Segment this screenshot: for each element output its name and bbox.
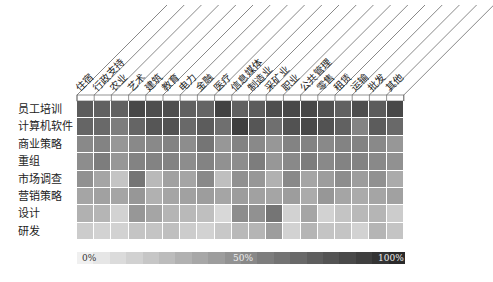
heatmap-cell — [180, 205, 197, 222]
row-label: 营销策略 — [18, 188, 62, 205]
heatmap-cell — [335, 153, 352, 170]
heatmap-cell — [180, 101, 197, 118]
heatmap-cell — [77, 118, 94, 135]
heatmap-cell — [232, 101, 249, 118]
heatmap-cell — [146, 188, 163, 205]
legend-mid-label: 50% — [233, 252, 253, 264]
heatmap-cell — [129, 153, 146, 170]
heatmap-cell — [318, 223, 335, 240]
heatmap-cell — [146, 153, 163, 170]
heatmap-cell — [215, 223, 232, 240]
heatmap-cell — [369, 188, 386, 205]
heatmap-cell — [335, 188, 352, 205]
heatmap-cell — [197, 188, 214, 205]
heatmap-cell — [352, 205, 369, 222]
heatmap-cell — [387, 171, 404, 188]
heatmap-cell — [163, 153, 180, 170]
heatmap-cell — [283, 118, 300, 135]
heatmap-cell — [111, 188, 128, 205]
heatmap-cell — [352, 136, 369, 153]
heatmap-cell — [163, 171, 180, 188]
heatmap-cell — [266, 223, 283, 240]
heatmap-cell — [249, 101, 266, 118]
heatmap-cell — [283, 223, 300, 240]
heatmap-cell — [180, 223, 197, 240]
heatmap-cell — [301, 205, 318, 222]
heatmap-cell — [215, 171, 232, 188]
row-label: 研发 — [18, 223, 40, 240]
heatmap-cell — [94, 101, 111, 118]
heatmap-cell — [77, 136, 94, 153]
heatmap-cell — [335, 223, 352, 240]
heatmap-cell — [266, 118, 283, 135]
row-label: 员工培训 — [18, 101, 62, 118]
heatmap-chart: 员工培训计算机软件商业策略重组市场调查营销策略设计研发 住宿行政支持农业艺术建筑… — [0, 0, 493, 282]
heatmap-cell — [387, 118, 404, 135]
heatmap-cell — [94, 171, 111, 188]
heatmap-cell — [197, 101, 214, 118]
heatmap-cell — [146, 223, 163, 240]
heatmap-cell — [335, 101, 352, 118]
heatmap-cell — [335, 205, 352, 222]
heatmap-cell — [146, 136, 163, 153]
heatmap-cell — [335, 136, 352, 153]
heatmap-cell — [129, 205, 146, 222]
heatmap-cell — [266, 205, 283, 222]
heatmap-cell — [77, 153, 94, 170]
heatmap-cell — [352, 101, 369, 118]
heatmap-cell — [301, 188, 318, 205]
heatmap-cell — [215, 205, 232, 222]
heatmap-cell — [301, 153, 318, 170]
heatmap-cell — [318, 136, 335, 153]
heatmap-cell — [111, 223, 128, 240]
heatmap-cell — [197, 118, 214, 135]
heatmap-cell — [318, 101, 335, 118]
row-label: 商业策略 — [18, 136, 62, 153]
heatmap-cell — [352, 153, 369, 170]
row-label: 市场调查 — [18, 171, 62, 188]
heatmap-cell — [283, 136, 300, 153]
heatmap-cell — [335, 171, 352, 188]
heatmap-cell — [352, 223, 369, 240]
row-label: 设计 — [18, 205, 40, 222]
heatmap-cell — [180, 118, 197, 135]
heatmap-cell — [352, 188, 369, 205]
heatmap-cell — [163, 188, 180, 205]
heatmap-cell — [215, 136, 232, 153]
heatmap-cell — [266, 101, 283, 118]
heatmap-cell — [266, 153, 283, 170]
heatmap-cell — [77, 188, 94, 205]
heatmap-cell — [249, 188, 266, 205]
heatmap-cell — [352, 118, 369, 135]
heatmap-cell — [111, 171, 128, 188]
legend-max-label: 100% — [378, 252, 404, 264]
heatmap-cell — [111, 136, 128, 153]
row-label: 计算机软件 — [18, 118, 73, 135]
heatmap-cell — [129, 223, 146, 240]
heatmap-cell — [387, 188, 404, 205]
heatmap-cell — [111, 101, 128, 118]
heatmap-cell — [387, 223, 404, 240]
row-label: 重组 — [18, 153, 40, 170]
heatmap-cell — [146, 205, 163, 222]
heatmap-cell — [266, 188, 283, 205]
heatmap-cell — [146, 118, 163, 135]
heatmap-cell — [301, 118, 318, 135]
heatmap-cell — [369, 101, 386, 118]
heatmap-cell — [283, 153, 300, 170]
heatmap-cell — [232, 118, 249, 135]
heatmap-cell — [111, 153, 128, 170]
heatmap-cell — [369, 223, 386, 240]
heatmap-cell — [94, 188, 111, 205]
heatmap-cell — [129, 101, 146, 118]
heatmap-cell — [129, 118, 146, 135]
heatmap-cell — [249, 205, 266, 222]
heatmap-cell — [94, 118, 111, 135]
heatmap-cell — [249, 171, 266, 188]
heatmap-cell — [163, 223, 180, 240]
heatmap-cell — [77, 171, 94, 188]
heatmap-cell — [77, 205, 94, 222]
heatmap-cell — [301, 101, 318, 118]
heatmap-cell — [163, 101, 180, 118]
heatmap-cell — [197, 223, 214, 240]
